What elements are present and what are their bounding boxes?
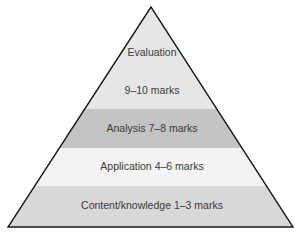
evaluation-title: Evaluation [127,46,176,58]
pyramid-diagram: Evaluation 9–10 marks Analysis 7–8 marks… [0,0,295,232]
analysis-label: Analysis 7–8 marks [106,122,197,134]
application-label: Application 4–6 marks [100,160,203,172]
evaluation-marks: 9–10 marks [125,84,180,96]
content-label: Content/knowledge 1–3 marks [81,199,223,211]
